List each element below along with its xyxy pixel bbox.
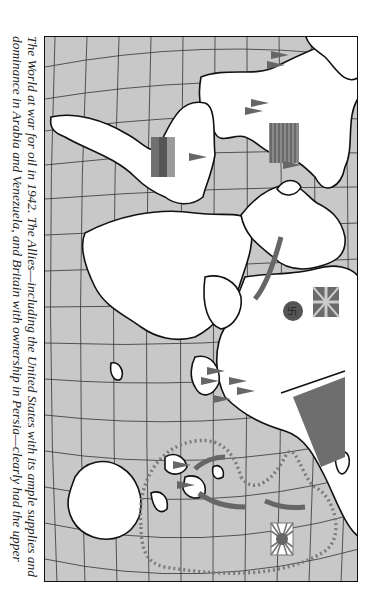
world-map: 卐 (44, 36, 358, 582)
philippines (213, 466, 224, 479)
japan-rising-sun-flag (271, 523, 293, 555)
south-america (51, 102, 215, 204)
madagascar (111, 363, 123, 380)
figure-caption: The World at war for oil in 1942. The Al… (0, 0, 40, 596)
caption-line-2: dominance in Arabia and Venezuela, and B… (10, 36, 25, 596)
new-guinea (151, 492, 167, 512)
europe (241, 185, 345, 269)
australia (68, 462, 141, 540)
united-kingdom-flag (313, 287, 339, 317)
svg-text:卐: 卐 (287, 306, 297, 317)
indian-subcontinent (191, 356, 219, 395)
caption-line-1: The World at war for oil in 1942. The Al… (25, 36, 40, 596)
nazi-germany-flag: 卐 (283, 301, 303, 321)
united-states-flag (269, 123, 299, 163)
venezuela-flag (151, 137, 175, 177)
japanese-advance-arrows (195, 457, 305, 508)
